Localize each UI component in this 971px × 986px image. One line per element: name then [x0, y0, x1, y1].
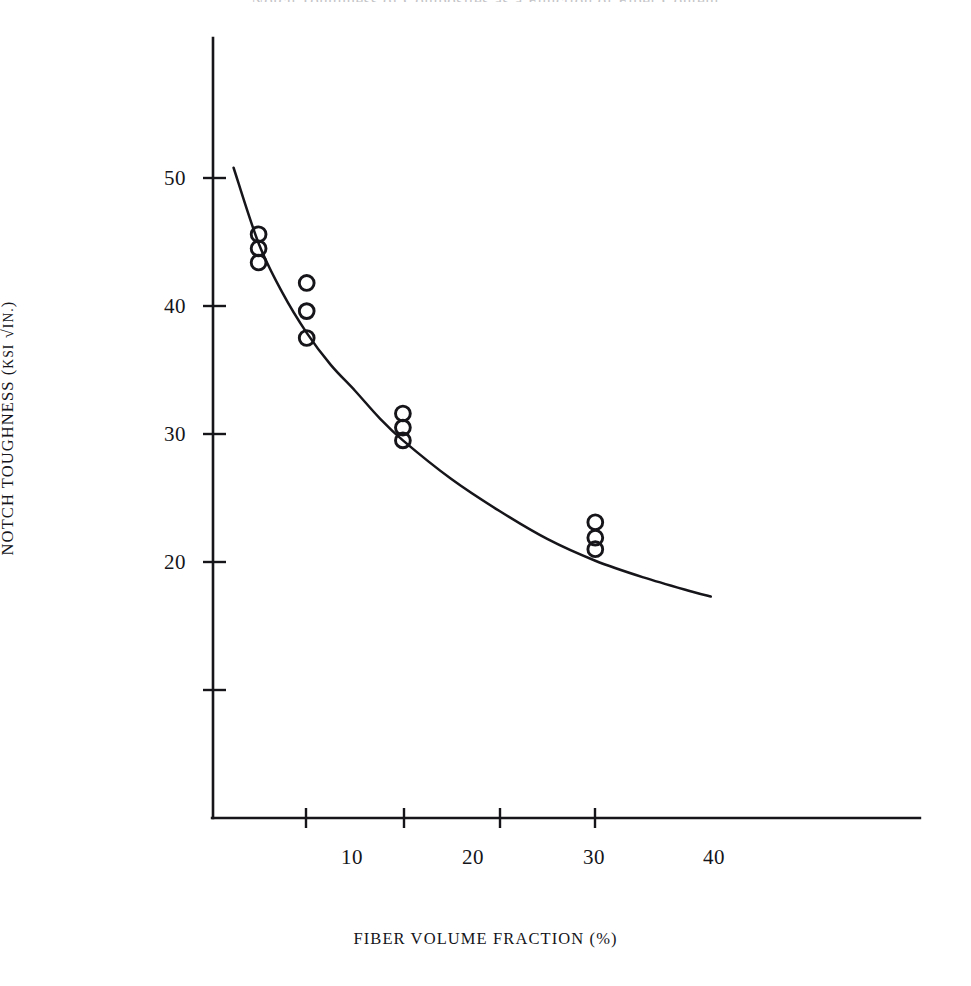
sqrt-icon: √IN.	[0, 307, 18, 338]
data-point-marker	[396, 406, 411, 421]
y-tick-label-20: 20	[164, 550, 186, 575]
y-axis-title-unit: KSI	[1, 344, 16, 369]
fitted-curve	[234, 168, 711, 597]
data-point-marker	[588, 515, 603, 530]
x-tick-label-10: 10	[341, 845, 363, 870]
data-point-marker	[299, 276, 314, 291]
y-axis-title-radicand: IN.	[1, 307, 16, 328]
data-point-marker	[251, 255, 266, 270]
y-axis-title-main: NOTCH TOUGHNESS (	[0, 369, 17, 556]
x-axis-title: FIBER VOLUME FRACTION (%)	[0, 929, 971, 949]
data-point-marker	[251, 227, 266, 242]
y-axis-title-close: )	[0, 301, 17, 308]
y-tick-label-40: 40	[164, 294, 186, 319]
data-point-marker	[299, 304, 314, 319]
y-axis-title-sqrt-space	[0, 338, 17, 343]
y-tick-label-30: 30	[164, 422, 186, 447]
figure-root: Notch Toughness of Composites as a Funct…	[0, 0, 971, 986]
plot-canvas	[0, 0, 971, 986]
x-tick-label-30: 30	[583, 845, 605, 870]
y-axis-ticks	[203, 178, 226, 690]
scatter-markers	[251, 227, 602, 557]
y-axis-title: NOTCH TOUGHNESS (KSI √IN.)	[0, 301, 18, 556]
x-tick-label-40: 40	[703, 845, 725, 870]
x-tick-label-20: 20	[462, 845, 484, 870]
y-tick-label-50: 50	[164, 166, 186, 191]
